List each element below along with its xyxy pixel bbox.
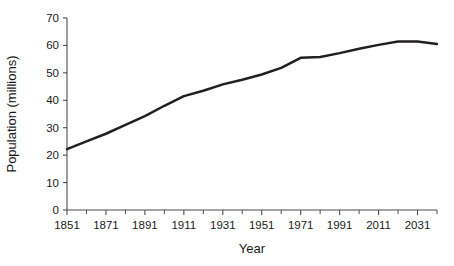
y-axis-tick-marks (63, 18, 67, 210)
x-tick-label: 1951 (249, 219, 275, 231)
x-tick-label: 2031 (405, 219, 431, 231)
x-tick-label: 1971 (288, 219, 314, 231)
x-tick-label: 1931 (210, 219, 236, 231)
y-tick-label: 40 (46, 94, 59, 106)
y-tick-label: 50 (46, 67, 59, 79)
y-tick-label: 10 (46, 177, 59, 189)
x-axis-tick-labels: 1851187118911911193119511971199120112031 (54, 219, 430, 231)
x-tick-label: 1871 (93, 219, 119, 231)
y-tick-label: 30 (46, 122, 59, 134)
y-axis-tick-labels: 010203040506070 (46, 12, 59, 216)
y-tick-label: 70 (46, 12, 59, 24)
population-line-chart: 010203040506070 185118711891191119311951… (0, 0, 454, 266)
y-tick-label: 60 (46, 39, 59, 51)
y-axis-title: Population (millions) (4, 55, 19, 172)
x-tick-label: 2011 (366, 219, 391, 231)
x-axis-tick-marks (67, 210, 437, 215)
x-tick-label: 1911 (171, 219, 196, 231)
x-tick-label: 1991 (327, 219, 353, 231)
x-axis-title: Year (239, 241, 266, 256)
x-tick-label: 1891 (132, 219, 158, 231)
population-series-line (67, 42, 437, 150)
y-tick-label: 20 (46, 149, 59, 161)
y-tick-label: 0 (53, 204, 59, 216)
x-tick-label: 1851 (54, 219, 80, 231)
chart-canvas: 010203040506070 185118711891191119311951… (0, 0, 454, 266)
